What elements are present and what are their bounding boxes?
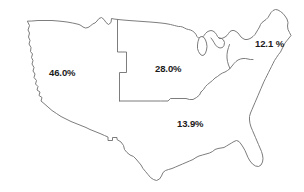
lake-michigan-shape: [198, 37, 208, 56]
region-label-midwest: 28.0%: [155, 64, 181, 74]
us-region-map-figure: 46.0% 28.0% 13.9% 12.1 %: [0, 0, 304, 192]
region-label-south: 13.9%: [177, 119, 203, 129]
usa-national-outline: [28, 10, 292, 181]
us-map-outline-svg: [0, 0, 304, 192]
region-label-northeast: 12.1 %: [255, 39, 284, 49]
region-label-west: 46.0%: [49, 68, 75, 78]
